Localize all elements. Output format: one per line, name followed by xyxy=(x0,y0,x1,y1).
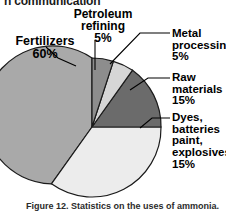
pie-label-petroleum-refining: Petroleum refining 5% xyxy=(60,8,146,45)
pie-label-dyes-batteries-paint-explosives: Dyes, batteries paint, explosives 15% xyxy=(172,112,226,171)
figure-container: n communication Fertilizers 60% Petroleu… xyxy=(0,0,226,211)
pie-label-raw-materials: Raw materials 15% xyxy=(172,72,226,107)
figure-caption: Figure 12. Statistics on the uses of amm… xyxy=(26,201,219,211)
pie-label-metal-processing: Metal processing 5% xyxy=(172,28,226,63)
